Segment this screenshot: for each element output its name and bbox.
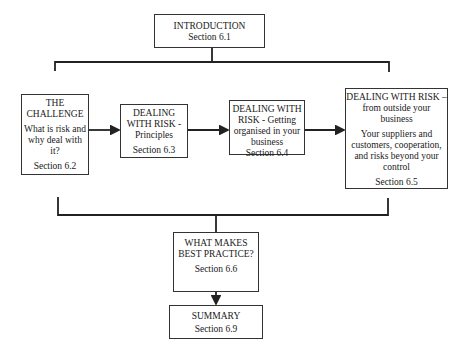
- node-title: INTRODUCTION: [155, 21, 264, 32]
- node-title: DEALING WITH: [230, 104, 304, 115]
- bottom-bracket: [58, 197, 388, 215]
- node-title: from outside your: [346, 103, 447, 114]
- node-summary: SUMMARY Section 6.9: [169, 305, 263, 339]
- node-section: Section 6.4: [230, 148, 304, 159]
- node-section: Section 6.9: [170, 324, 262, 335]
- node-description: What is risk and: [22, 124, 88, 135]
- node-title: Principles: [121, 130, 187, 141]
- node-section: Section 6.5: [346, 177, 447, 188]
- node-title: DEALING: [121, 108, 187, 119]
- node-section: Section 6.2: [22, 161, 88, 172]
- node-description: Your suppliers and: [346, 129, 447, 140]
- node-title: BEST PRACTICE?: [174, 249, 258, 260]
- node-getting-organised: DEALING WITH RISK - Getting organised in…: [229, 100, 305, 155]
- node-section: Section 6.1: [155, 32, 264, 43]
- top-bracket: [55, 62, 389, 72]
- node-from-outside: DEALING WITH RISK – from outside your bu…: [345, 88, 448, 189]
- node-title: business: [346, 114, 447, 125]
- node-principles: DEALING WITH RISK - Principles Section 6…: [120, 104, 188, 158]
- node-title: WHAT MAKES: [174, 238, 258, 249]
- node-section: Section 6.6: [174, 264, 258, 275]
- node-title: business: [230, 137, 304, 148]
- node-title: WITH RISK -: [121, 119, 187, 130]
- node-introduction: INTRODUCTION Section 6.1: [154, 14, 265, 48]
- node-title: THE: [22, 98, 88, 109]
- node-title: DEALING WITH RISK –: [346, 92, 447, 103]
- node-title: RISK - Getting: [230, 115, 304, 126]
- node-description: control: [346, 162, 447, 173]
- node-the-challenge: THE CHALLENGE What is risk and why deal …: [21, 94, 89, 175]
- node-section: Section 6.3: [121, 145, 187, 156]
- node-title: SUMMARY: [170, 311, 262, 322]
- node-description: why deal with: [22, 135, 88, 146]
- node-description: customers, cooperation,: [346, 140, 447, 151]
- node-best-practice: WHAT MAKES BEST PRACTICE? Section 6.6: [173, 232, 259, 292]
- node-title: organised in your: [230, 126, 304, 137]
- node-title: CHALLENGE: [22, 109, 88, 120]
- node-description: and risks beyond your: [346, 151, 447, 162]
- node-description: it?: [22, 146, 88, 157]
